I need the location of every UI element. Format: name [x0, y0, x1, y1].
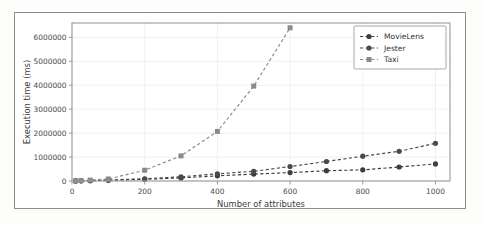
- legend-label-jester: Jester: [383, 44, 407, 53]
- ytick-label-1: 1000000: [34, 153, 67, 162]
- ytick-label-5: 5000000: [34, 57, 67, 66]
- marker-jester-9: [324, 159, 329, 164]
- marker-jester-8: [287, 164, 292, 169]
- marker-taxi-5: [179, 153, 184, 158]
- legend-label-movielens: MovieLens: [384, 32, 424, 41]
- legend-label-taxi: Taxi: [383, 55, 399, 64]
- marker-movielens-11: [397, 164, 402, 169]
- ytick-label-4: 4000000: [34, 81, 67, 90]
- marker-taxi-8: [288, 25, 293, 30]
- xtick-label-2: 400: [210, 187, 224, 196]
- marker-taxi-7: [251, 84, 256, 89]
- y-axis-title: Execution time (ms): [22, 60, 32, 144]
- marker-jester-6: [215, 171, 220, 176]
- legend-marker-jester: [366, 45, 371, 50]
- marker-jester-7: [251, 169, 256, 174]
- marker-movielens-10: [360, 167, 365, 172]
- marker-movielens-12: [433, 161, 438, 166]
- xtick-label-1: 200: [138, 187, 152, 196]
- ytick-label-6: 6000000: [34, 33, 67, 42]
- marker-taxi-4: [142, 168, 147, 173]
- legend-marker-taxi: [367, 57, 372, 62]
- marker-jester-11: [397, 149, 402, 154]
- execution-time-chart: 0100000020000003000000400000050000006000…: [14, 12, 466, 209]
- marker-movielens-8: [287, 170, 292, 175]
- marker-movielens-9: [324, 168, 329, 173]
- ytick-label-2: 2000000: [34, 129, 67, 138]
- marker-jester-12: [433, 141, 438, 146]
- x-axis-title: Number of attributes: [217, 199, 305, 209]
- ytick-label-3: 3000000: [34, 105, 67, 114]
- xtick-label-4: 800: [356, 187, 370, 196]
- ytick-label-0: 0: [62, 177, 67, 186]
- marker-taxi-2: [88, 178, 93, 183]
- marker-jester-10: [360, 154, 365, 159]
- chart-canvas: 0100000020000003000000400000050000006000…: [14, 12, 466, 209]
- marker-jester-5: [178, 174, 183, 179]
- marker-taxi-6: [215, 129, 220, 134]
- legend-marker-movielens: [366, 34, 371, 39]
- xtick-label-0: 0: [70, 187, 75, 196]
- xtick-label-5: 1000: [426, 187, 445, 196]
- xtick-label-3: 600: [283, 187, 297, 196]
